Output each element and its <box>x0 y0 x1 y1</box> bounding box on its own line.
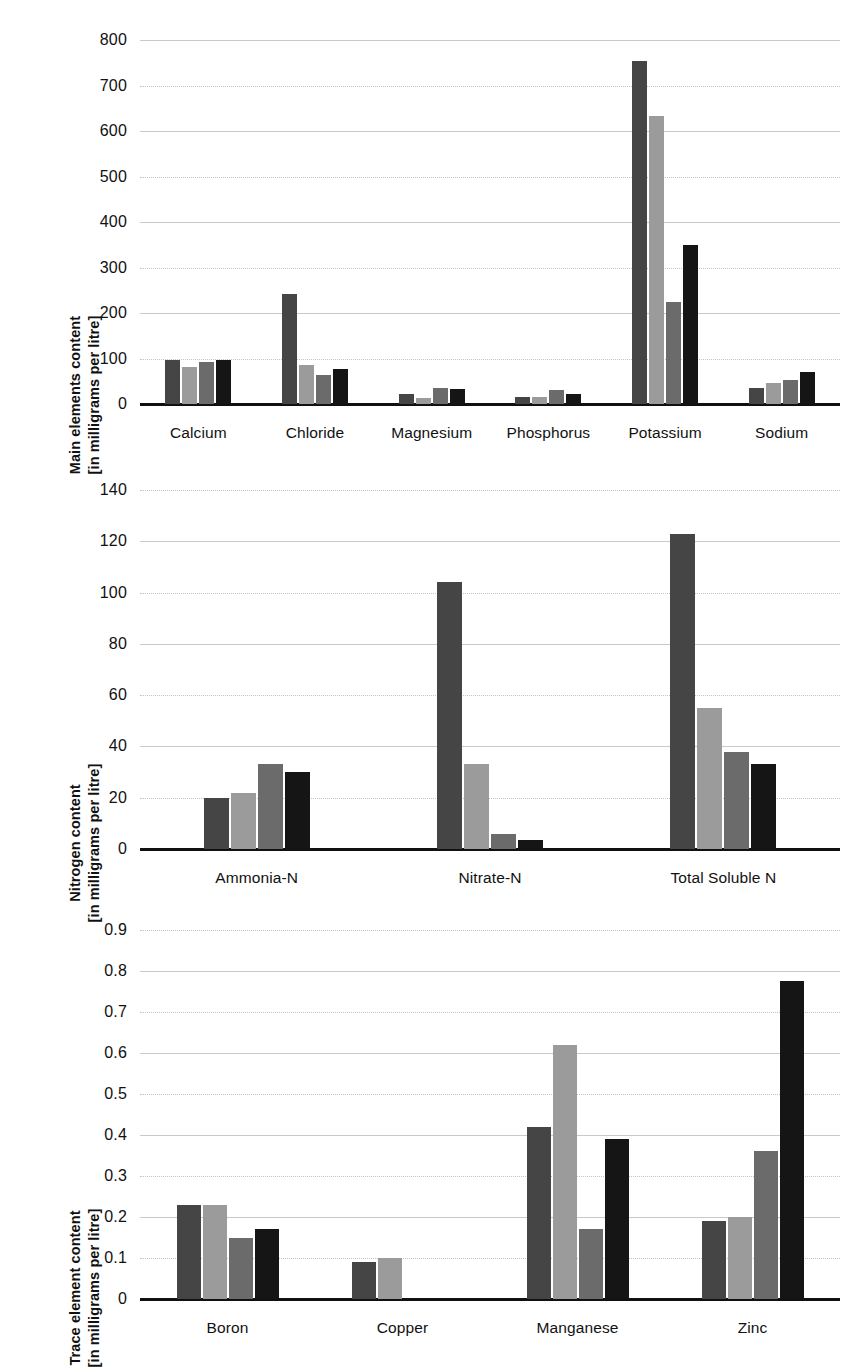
bar-cluster <box>373 40 490 404</box>
bar <box>749 388 764 404</box>
bar <box>204 798 229 849</box>
y-axis-title-line1: Main elements content <box>67 316 83 474</box>
bar-group: Chloride <box>257 40 374 404</box>
bar <box>527 1127 551 1299</box>
bar-group: Total Soluble N <box>607 490 840 849</box>
bar-cluster <box>373 490 606 849</box>
bar <box>649 116 664 404</box>
chart-panel-nitrogen: Nitrogen content[in milligrams per litre… <box>0 490 854 895</box>
x-axis-category-label: Ammonia-N <box>140 869 373 887</box>
x-axis-category-label: Potassium <box>607 424 724 442</box>
bar <box>352 1262 376 1299</box>
y-axis-title-line2: [in milligrams per litre] <box>86 316 102 475</box>
bar-cluster <box>140 930 315 1299</box>
bar-group: Phosphorus <box>490 40 607 404</box>
y-axis-tick-label: 200 <box>100 304 127 322</box>
x-axis-category-label: Zinc <box>665 1319 840 1337</box>
x-axis-category-label: Boron <box>140 1319 315 1337</box>
bar-cluster <box>140 40 257 404</box>
y-axis-tick-label: 0.6 <box>104 1044 127 1062</box>
y-axis-tick-label: 800 <box>100 31 127 49</box>
y-axis-title-line2: [in milligrams per litre] <box>86 763 102 922</box>
bar-group: Sodium <box>723 40 840 404</box>
bar-groups: CalciumChlorideMagnesiumPhosphorusPotass… <box>140 40 840 404</box>
plot-area-nitrogen: 020406080100120140Ammonia-NNitrate-NTota… <box>140 490 840 849</box>
bar <box>258 764 283 849</box>
bar <box>780 981 804 1299</box>
y-axis-tick-label: 0.1 <box>104 1249 127 1267</box>
bar <box>518 840 543 849</box>
y-axis-title-text: Trace element content[in milligrams per … <box>66 1138 104 1367</box>
bar-group: Nitrate-N <box>373 490 606 849</box>
bar-cluster <box>607 490 840 849</box>
y-axis-tick-label: 400 <box>100 213 127 231</box>
bar-cluster <box>140 490 373 849</box>
bar <box>670 534 695 849</box>
bar-group: Ammonia-N <box>140 490 373 849</box>
bar <box>783 380 798 404</box>
y-axis-tick-label: 0 <box>118 395 127 413</box>
chart-panel-trace-elements: Trace element content[in milligrams per … <box>0 930 854 1345</box>
bar <box>724 752 749 849</box>
y-axis-title-line1: Nitrogen content <box>67 784 83 902</box>
y-axis-title-nitrogen: Nitrogen content[in milligrams per litre… <box>26 490 70 895</box>
y-axis-tick-label: 700 <box>100 77 127 95</box>
bar <box>299 365 314 404</box>
y-axis-tick-label: 60 <box>109 686 127 704</box>
bar <box>605 1139 629 1299</box>
bar-cluster <box>490 40 607 404</box>
bar <box>697 708 722 849</box>
plot-area-trace-elements: 00.10.20.30.40.50.60.70.80.9BoronCopperM… <box>140 930 840 1299</box>
bar-cluster <box>315 930 490 1299</box>
x-axis-category-label: Phosphorus <box>490 424 607 442</box>
bar <box>549 390 564 404</box>
bar-groups: BoronCopperManganeseZinc <box>140 930 840 1299</box>
bar <box>566 394 581 404</box>
bar <box>702 1221 726 1299</box>
y-axis-title-line1: Trace element content <box>67 1210 83 1365</box>
bar <box>199 362 214 404</box>
y-axis-tick-label: 40 <box>109 737 127 755</box>
x-axis-category-label: Calcium <box>140 424 257 442</box>
y-axis-tick-label: 0.9 <box>104 921 127 939</box>
chart-panel-main-elements: Main elements content[in milligrams per … <box>0 40 854 450</box>
plot-area-main-elements: 0100200300400500600700800CalciumChloride… <box>140 40 840 404</box>
bar <box>579 1229 603 1299</box>
bar-group: Manganese <box>490 930 665 1299</box>
y-axis-tick-label: 0 <box>118 1290 127 1308</box>
bar <box>229 1238 253 1300</box>
bar <box>165 360 180 404</box>
plot-inner: 00.10.20.30.40.50.60.70.80.9BoronCopperM… <box>140 930 840 1299</box>
bar <box>766 383 781 404</box>
y-axis-tick-label: 0.8 <box>104 962 127 980</box>
x-axis-category-label: Magnesium <box>373 424 490 442</box>
y-axis-title-line2: [in milligrams per litre] <box>86 1208 102 1367</box>
y-axis-tick-label: 80 <box>109 635 127 653</box>
bar <box>177 1205 201 1299</box>
bar <box>515 397 530 404</box>
bar <box>285 772 310 849</box>
bar-group: Calcium <box>140 40 257 404</box>
bar-group: Boron <box>140 930 315 1299</box>
bar <box>333 369 348 404</box>
y-axis-tick-label: 0.7 <box>104 1003 127 1021</box>
y-axis-tick-label: 500 <box>100 168 127 186</box>
x-axis-category-label: Sodium <box>723 424 840 442</box>
bar <box>416 398 431 404</box>
bar <box>216 360 231 404</box>
y-axis-tick-label: 0 <box>118 840 127 858</box>
y-axis-tick-label: 120 <box>100 532 127 550</box>
y-axis-tick-label: 0.3 <box>104 1167 127 1185</box>
y-axis-tick-label: 0.5 <box>104 1085 127 1103</box>
bar <box>751 764 776 849</box>
bar-cluster <box>665 930 840 1299</box>
y-axis-tick-label: 300 <box>100 259 127 277</box>
bar <box>666 302 681 404</box>
bar <box>491 834 516 849</box>
y-axis-title-main-elements: Main elements content[in milligrams per … <box>26 40 70 450</box>
x-axis-category-label: Copper <box>315 1319 490 1337</box>
bar-group: Copper <box>315 930 490 1299</box>
bar-cluster <box>607 40 724 404</box>
bar <box>433 388 448 404</box>
figure-multipanel-bar-charts: Main elements content[in milligrams per … <box>0 0 854 1367</box>
